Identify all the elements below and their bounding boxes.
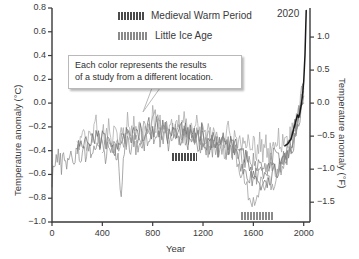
y-tick-right-0: 1.0: [317, 31, 330, 41]
legend-label-medieval-warm-period: Medieval Warm Period: [151, 10, 252, 21]
y-tick-left-1: 0.6: [14, 26, 46, 36]
callout-line-1: Each color represents the results: [75, 60, 235, 72]
y-tick-right-5: −1.5: [317, 196, 335, 206]
legend-item-medieval-warm-period: Medieval Warm Period: [118, 10, 252, 21]
x-tick-5: 2000: [290, 228, 318, 238]
x-tick-1: 400: [88, 228, 116, 238]
y-tick-left-2: 0.4: [14, 50, 46, 60]
x-tick-4: 1600: [239, 228, 267, 238]
y-tick-left-9: −1.0: [14, 216, 46, 226]
era-bar-little-ice-age: [241, 212, 274, 220]
legend-label-little-ice-age: Little Ice Age: [155, 30, 212, 41]
year-2020-label: 2020: [277, 8, 299, 19]
legend-swatch-little-ice-age: [118, 32, 148, 40]
era-bar-medieval-warm-period: [172, 153, 197, 161]
y-tick-left-3: 0.2: [14, 73, 46, 83]
y-tick-left-0: 0.8: [14, 2, 46, 12]
x-tick-0: 0: [38, 228, 66, 238]
legend-swatch-medieval-warm-period: [118, 12, 144, 20]
y-axis-right-title: Temperature anomaly (°F): [337, 78, 348, 188]
y-tick-right-3: −0.5: [317, 130, 335, 140]
y-tick-right-2: 0.0: [317, 97, 330, 107]
x-axis-title: Year: [166, 243, 185, 254]
callout-box: Each color represents the results of a s…: [68, 55, 242, 89]
y-axis-left-title: Temperature anomaly (°C): [12, 84, 23, 196]
y-tick-right-4: −1.0: [317, 163, 335, 173]
callout-line-2: of a study from a different location.: [75, 72, 235, 84]
y-tick-right-1: 0.5: [317, 64, 330, 74]
x-tick-2: 800: [139, 228, 167, 238]
chart-figure: 0.80.60.40.20.0−0.2−0.4−0.6−0.8−1.0 1.00…: [0, 0, 359, 259]
legend-item-little-ice-age: Little Ice Age: [118, 30, 212, 41]
x-tick-3: 1200: [189, 228, 217, 238]
